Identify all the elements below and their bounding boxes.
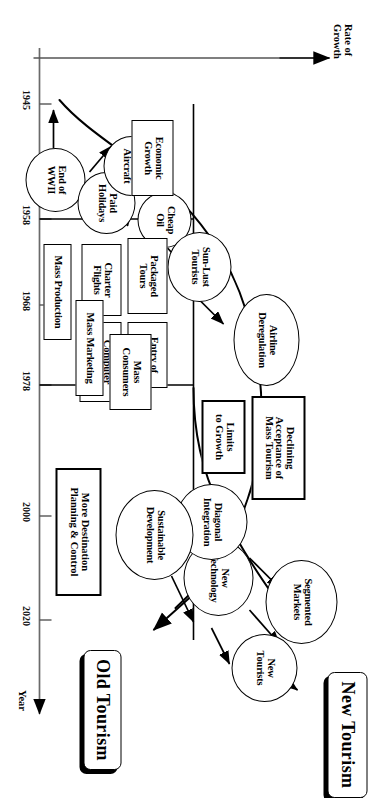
feature-economic-growth-line2: Growth [141,141,152,175]
feature-declining-acceptance-line3: Mass Tourism [262,416,273,479]
axis-year-text: Year [16,690,27,711]
outcome-new-tourism[interactable]: New Tourism [327,672,367,798]
feature-packaged-tours-line1: Packaged [147,255,158,297]
year-tick-1945: 1945 [20,90,31,110]
year-tick-2000-text: 2000 [20,502,31,522]
outcome-old-tourism[interactable]: Old Tourism [83,650,121,770]
feature-declining-acceptance-line2: Acceptance of [273,417,284,480]
driver-diagonal-integration-line2: Integration [200,498,211,547]
feature-mass-marketing-label: Mass Marketing [84,313,95,384]
driver-paid-holidays-line1: Paid [106,193,117,213]
feature-economic-growth[interactable]: Economic Growth [131,120,173,196]
driver-sustainable-development-line2: Development [143,507,154,564]
driver-segmented-markets[interactable]: Segmented Markets [265,560,337,644]
driver-airline-deregulation[interactable]: Airline Deregulation [233,294,299,386]
feature-more-destination-planning-line1: More Destination [78,493,89,571]
feature-mass-production-label: Mass Production [52,256,63,329]
arrow-sun-lust [199,300,223,324]
feature-limits-to-growth-line1: Limits [223,422,234,451]
driver-paid-holidays-line2: Holidays [95,184,106,222]
year-tick-1978: 1978 [20,371,31,391]
feature-packaged-tours-line2: Tours [136,264,147,289]
driver-sustainable-development-line1: Sustainable [154,510,165,560]
year-tick-1958: 1958 [20,205,31,225]
year-tick-2020: 2020 [20,606,31,626]
feature-mass-consumers[interactable]: Mass Consumers [109,334,151,410]
feature-charter-flights-line2: Flights [90,265,101,295]
feature-mass-marketing[interactable]: Mass Marketing [75,300,103,396]
year-tick-1968: 1968 [20,291,31,311]
feature-charter-flights-line1: Charter [101,263,112,298]
driver-airline-deregulation-line2: Deregulation [255,312,266,368]
year-tick-1958-text: 1958 [20,205,31,225]
feature-mass-consumers-line2: Consumers [119,348,130,397]
arrow-segmented-markets [211,628,229,664]
year-tick-2020-text: 2020 [20,606,31,626]
outcome-new-tourism-label: New Tourism [338,682,357,789]
year-tick-1945-text: 1945 [20,90,31,110]
driver-cheap-oil-line1: Cheap [164,206,175,234]
driver-sun-lust-tourists-line2: Tourists [188,250,199,285]
driver-diagonal-integration-line1: Diagonal [211,503,222,542]
driver-airline-deregulation-line1: Airline [266,325,277,355]
driver-cheap-oil-line2: Oil [153,213,164,226]
driver-end-of-wwii[interactable]: End of WWII [25,148,85,212]
driver-new-tourists[interactable]: New Tourists [231,634,297,702]
year-tick-1978-text: 1978 [20,371,31,391]
outcome-old-tourism-label: Old Tourism [93,659,112,761]
driver-new-technology-line1: New [218,568,229,587]
feature-packaged-tours[interactable]: Packaged Tours [127,238,167,314]
feature-limits-to-growth[interactable]: Limits to Growth [201,400,245,474]
driver-sustainable-development[interactable]: Sustainable Development [115,490,193,580]
feature-mass-consumers-line1: Mass [130,361,141,384]
year-tick-1968-text: 1968 [20,291,31,311]
driver-new-tourists-line1: New [264,658,275,677]
driver-sun-lust-tourists[interactable]: Sun-Lust Tourists [167,232,231,302]
axis-rate-of-growth-label: Rate of Growth [331,24,353,59]
feature-limits-to-growth-line2: to Growth [212,414,223,460]
old-tourism-arrow [153,596,191,630]
feature-mass-production[interactable]: Mass Production [43,244,71,340]
feature-declining-acceptance-line1: Declining [283,427,294,470]
driver-new-technology-line2: Technology [207,554,218,603]
axis-year-label: Year [16,690,27,711]
year-tick-2000: 2000 [20,502,31,522]
feature-more-destination-planning[interactable]: More Destination Planning & Control [55,468,101,596]
driver-end-of-wwii-line1: End of [55,166,66,195]
driver-sun-lust-tourists-line1: Sun-Lust [199,247,210,287]
feature-economic-growth-line1: Economic [152,137,163,180]
feature-more-destination-planning-line2: Planning & Control [67,487,78,576]
axis-rate-of-growth-line2: Growth [331,24,342,59]
driver-segmented-markets-line1: Segmented [301,578,312,625]
driver-end-of-wwii-line2: WWII [44,166,55,194]
axis-rate-of-growth-line1: Rate of [342,24,353,59]
driver-new-tourists-line2: Tourists [253,651,264,686]
feature-declining-acceptance[interactable]: Declining Acceptance of Mass Tourism [251,396,305,500]
driver-jet-aircraft-line2: Aircraft [120,149,131,184]
driver-segmented-markets-line2: Markets [290,584,301,621]
